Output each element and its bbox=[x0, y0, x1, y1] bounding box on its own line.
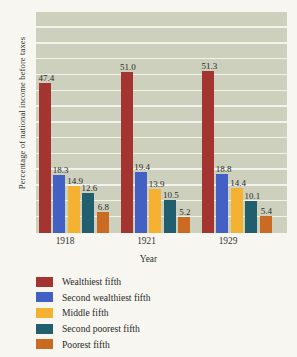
bar-fill bbox=[164, 200, 176, 233]
plot-canvas: 47.418.314.912.66.851.019.413.910.55.251… bbox=[36, 12, 287, 233]
legend: Wealthiest fifthSecond wealthiest fifthM… bbox=[36, 274, 276, 352]
bar[interactable]: 14.9 bbox=[68, 186, 80, 233]
y-axis-tick-labels: 0510152025303540455055606570 bbox=[0, 12, 36, 233]
bar-value-label: 13.9 bbox=[149, 179, 165, 189]
legend-label: Poorest fifth bbox=[62, 339, 110, 350]
legend-label: Middle fifth bbox=[62, 307, 109, 318]
bar[interactable]: 6.8 bbox=[97, 212, 109, 233]
bar-fill bbox=[121, 72, 133, 233]
bar-value-label: 47.4 bbox=[38, 73, 54, 83]
bar-fill bbox=[202, 71, 214, 233]
bar-value-label: 5.4 bbox=[261, 206, 272, 216]
legend-swatch bbox=[36, 308, 53, 318]
bar[interactable]: 13.9 bbox=[149, 189, 161, 233]
bar-fill bbox=[39, 83, 51, 233]
legend-label: Second poorest fifth bbox=[62, 323, 140, 334]
bar[interactable]: 12.6 bbox=[82, 193, 94, 233]
bar-fill bbox=[82, 193, 94, 233]
x-axis-tick-label: 1929 bbox=[203, 236, 253, 246]
bar-group: 51.318.814.410.15.4 bbox=[202, 12, 272, 233]
legend-item[interactable]: Middle fifth bbox=[36, 305, 276, 321]
legend-label: Second wealthiest fifth bbox=[62, 292, 150, 303]
bar[interactable]: 18.8 bbox=[216, 174, 228, 233]
bar-fill bbox=[178, 217, 190, 233]
bar-value-label: 14.9 bbox=[67, 176, 83, 186]
x-axis-title: Year bbox=[0, 254, 297, 264]
bar-value-label: 18.3 bbox=[53, 165, 69, 175]
bar-fill bbox=[53, 175, 65, 233]
bar-value-label: 12.6 bbox=[82, 183, 98, 193]
bar-fill bbox=[245, 201, 257, 233]
bar-fill bbox=[149, 189, 161, 233]
bar-value-label: 6.8 bbox=[98, 202, 109, 212]
legend-item[interactable]: Poorest fifth bbox=[36, 336, 276, 352]
bar-value-label: 10.1 bbox=[245, 191, 261, 201]
bar-value-label: 5.2 bbox=[179, 207, 190, 217]
bar-fill bbox=[216, 174, 228, 233]
legend-item[interactable]: Second wealthiest fifth bbox=[36, 290, 276, 306]
bar[interactable]: 51.0 bbox=[121, 72, 133, 233]
bar[interactable]: 10.1 bbox=[245, 201, 257, 233]
legend-swatch bbox=[36, 339, 53, 349]
bar[interactable]: 19.4 bbox=[135, 172, 147, 233]
bar-fill bbox=[97, 212, 109, 233]
bar[interactable]: 51.3 bbox=[202, 71, 214, 233]
x-axis-tick-label: 1918 bbox=[40, 236, 90, 246]
plot-area: 47.418.314.912.66.851.019.413.910.55.251… bbox=[36, 12, 287, 233]
bar-fill bbox=[231, 188, 243, 233]
bar[interactable]: 14.4 bbox=[231, 188, 243, 233]
legend-item[interactable]: Wealthiest fifth bbox=[36, 274, 276, 290]
bar[interactable]: 10.5 bbox=[164, 200, 176, 233]
bar[interactable]: 5.4 bbox=[260, 216, 272, 233]
bar-group: 47.418.314.912.66.8 bbox=[39, 12, 109, 233]
bar-fill bbox=[260, 216, 272, 233]
legend-swatch bbox=[36, 324, 53, 334]
x-axis-tick-label: 1921 bbox=[122, 236, 172, 246]
legend-swatch bbox=[36, 292, 53, 302]
bar-chart-figure: Percentage of national income before tax… bbox=[0, 0, 297, 357]
bar-value-label: 51.3 bbox=[201, 61, 217, 71]
bar-fill bbox=[68, 186, 80, 233]
bar[interactable]: 47.4 bbox=[39, 83, 51, 233]
bar-value-label: 14.4 bbox=[230, 178, 246, 188]
bar[interactable]: 5.2 bbox=[178, 217, 190, 233]
bar[interactable]: 18.3 bbox=[53, 175, 65, 233]
bar-value-label: 51.0 bbox=[120, 62, 136, 72]
bar-fill bbox=[135, 172, 147, 233]
legend-swatch bbox=[36, 277, 53, 287]
bar-group: 51.019.413.910.55.2 bbox=[121, 12, 191, 233]
bar-value-label: 18.8 bbox=[216, 164, 232, 174]
bar-value-label: 10.5 bbox=[163, 190, 179, 200]
legend-label: Wealthiest fifth bbox=[62, 276, 121, 287]
x-axis-tick-labels: 191819211929 bbox=[36, 236, 287, 252]
legend-item[interactable]: Second poorest fifth bbox=[36, 321, 276, 337]
bar-value-label: 19.4 bbox=[134, 162, 150, 172]
